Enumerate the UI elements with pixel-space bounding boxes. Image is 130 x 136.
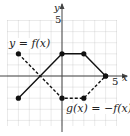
- y-axis-label: y: [54, 3, 60, 13]
- y-tick-5: 5: [55, 15, 61, 25]
- function-graph: [0, 0, 130, 136]
- g-label: g(x) = −f(x): [66, 103, 130, 114]
- f-label: y = f(x): [9, 38, 50, 49]
- x-axis-label: x: [122, 73, 128, 83]
- x-tick-5: 5: [112, 77, 118, 87]
